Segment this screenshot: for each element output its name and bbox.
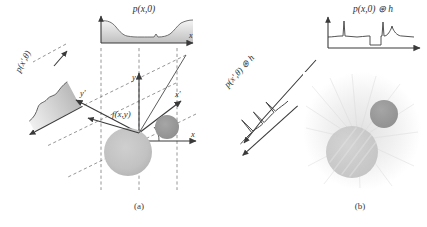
reconstruction-image	[303, 72, 421, 190]
label-p-xprime-theta-filtered: p(x′,θ) ⊛ h	[221, 52, 256, 90]
plot-b2-value-axis	[243, 151, 247, 155]
plot-a-x-axis-label: x	[188, 31, 193, 40]
object-small-disc	[155, 115, 179, 139]
label-p-xprime-theta: p(x′,θ)	[12, 49, 32, 75]
tomography-figure: p(x,0) x p(x′,θ) x′ y′	[0, 0, 427, 227]
reconstructed-small-disc	[370, 100, 398, 128]
panel-b: p(x,0) ⊛ h p(x′,θ) ⊛ h	[221, 4, 421, 211]
x-prime-axis-label: x′	[174, 89, 181, 99]
label-p-x-0: p(x,0)	[132, 4, 155, 15]
projection-plot-p-x-0: p(x,0) x	[101, 4, 193, 43]
label-p-x-0-filtered: p(x,0) ⊛ h	[352, 4, 393, 15]
x-axis-label: x	[190, 129, 195, 139]
projection-plot-p-x-0-filtered: p(x,0) ⊛ h	[328, 4, 420, 48]
y-prime-axis-label: y′	[79, 88, 86, 98]
plot-a2-value-axis	[30, 132, 35, 135]
caption-panel-a: (a)	[134, 201, 144, 211]
label-f-x-y: f(x,y)	[112, 109, 131, 119]
figure-root: p(x,0) x p(x′,θ) x′ y′	[0, 0, 427, 227]
object-large-disc	[104, 128, 152, 176]
caption-panel-b: (b)	[355, 201, 366, 211]
projection-plot-p-xprime-theta	[16, 81, 83, 135]
y-axis-label: y	[131, 72, 136, 82]
panel-a: p(x,0) x p(x′,θ) x′ y′	[12, 4, 196, 211]
object-phantom	[104, 115, 179, 176]
z-prime-axis	[54, 51, 67, 66]
